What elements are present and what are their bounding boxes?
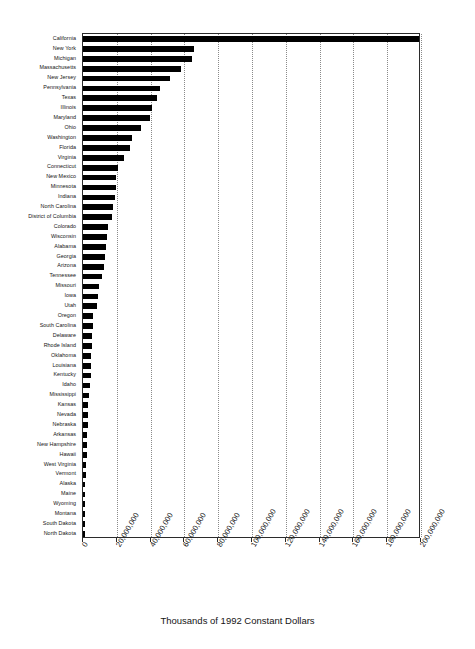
bar[interactable] [83, 313, 93, 319]
bar[interactable] [83, 303, 97, 309]
category-label: West Virginia [44, 461, 76, 467]
bar[interactable] [83, 373, 91, 379]
bar-row [83, 66, 419, 72]
value-axis-labels: 020,000,00040,000,00060,000,00080,000,00… [0, 538, 475, 613]
category-label: North Carolina [41, 203, 76, 209]
bar[interactable] [83, 343, 92, 349]
bar[interactable] [83, 402, 88, 408]
bar[interactable] [83, 274, 102, 280]
category-label: Nevada [57, 411, 76, 417]
bar[interactable] [83, 264, 104, 270]
bar[interactable] [83, 204, 113, 210]
bar[interactable] [83, 462, 86, 468]
bar[interactable] [83, 472, 86, 478]
bar[interactable] [83, 482, 85, 488]
category-label: Nebraska [53, 421, 76, 427]
bar[interactable] [83, 363, 91, 369]
category-label: Maryland [53, 114, 76, 120]
x-axis-tick-label: 200,000,000 [418, 507, 447, 548]
bar[interactable] [83, 145, 130, 151]
bar[interactable] [83, 383, 90, 389]
bar-row [83, 363, 419, 369]
bar[interactable] [83, 214, 112, 220]
category-label: Idaho [62, 381, 76, 387]
bar[interactable] [83, 492, 85, 498]
gridline [421, 34, 423, 537]
bar[interactable] [83, 501, 85, 507]
category-label: Illinois [61, 104, 76, 110]
category-label: Vermont [56, 470, 76, 476]
bar-chart: CaliforniaNew YorkMichiganMassachusettsN… [0, 0, 475, 649]
category-label: Kentucky [53, 371, 76, 377]
bar[interactable] [83, 165, 118, 171]
category-label: Rhode Island [44, 342, 76, 348]
bar-row [83, 531, 419, 537]
bar-row [83, 175, 419, 181]
bar-row [83, 323, 419, 329]
bar-row [83, 195, 419, 201]
category-label: Georgia [56, 253, 76, 259]
category-label: Minnesota [51, 183, 76, 189]
bar-row [83, 274, 419, 280]
bar[interactable] [83, 531, 85, 537]
bar[interactable] [83, 155, 124, 161]
bar-row [83, 185, 419, 191]
category-label: Michigan [54, 55, 76, 61]
bar[interactable] [83, 412, 88, 418]
bar[interactable] [83, 95, 157, 101]
bar[interactable] [83, 244, 106, 250]
bar-row [83, 155, 419, 161]
category-label: Oregon [58, 312, 76, 318]
bar[interactable] [83, 135, 132, 141]
bar[interactable] [83, 195, 115, 201]
category-label: Mississippi [49, 391, 76, 397]
bar[interactable] [83, 105, 152, 111]
bar[interactable] [83, 76, 170, 82]
bar[interactable] [83, 452, 87, 458]
bar-row [83, 56, 419, 62]
bar-row [83, 422, 419, 428]
bar[interactable] [83, 115, 150, 121]
bar[interactable] [83, 442, 87, 448]
bar-row [83, 432, 419, 438]
category-label: Arizona [57, 262, 76, 268]
bar[interactable] [83, 56, 192, 62]
bar[interactable] [83, 234, 107, 240]
category-label: South Dakota [43, 520, 76, 526]
category-label: New Hampshire [37, 441, 76, 447]
bar-row [83, 244, 419, 250]
bar-row [83, 383, 419, 389]
bar[interactable] [83, 254, 105, 260]
bar[interactable] [83, 86, 160, 92]
bar-row [83, 492, 419, 498]
bar[interactable] [83, 66, 181, 72]
bar[interactable] [83, 333, 92, 339]
category-label: Indiana [58, 193, 76, 199]
category-label: Wisconsin [51, 233, 76, 239]
category-label: North Dakota [44, 530, 76, 536]
category-label: District of Columbia [28, 213, 76, 219]
bar[interactable] [83, 294, 98, 300]
bar[interactable] [83, 185, 116, 191]
bar[interactable] [83, 393, 89, 399]
category-label: South Carolina [40, 322, 76, 328]
bar[interactable] [83, 511, 85, 517]
bar-row [83, 115, 419, 121]
bar[interactable] [83, 521, 85, 527]
bar[interactable] [83, 175, 116, 181]
category-label: California [53, 35, 76, 41]
bar[interactable] [83, 323, 93, 329]
bar-row [83, 86, 419, 92]
bar[interactable] [83, 353, 91, 359]
x-axis-tick-label: 0 [80, 540, 90, 548]
bar[interactable] [83, 46, 194, 52]
category-label: New Jersey [47, 74, 76, 80]
bar[interactable] [83, 36, 419, 42]
bar[interactable] [83, 125, 141, 131]
category-label: Iowa [64, 292, 76, 298]
bar[interactable] [83, 224, 108, 230]
bar[interactable] [83, 432, 87, 438]
bar-row [83, 105, 419, 111]
bar[interactable] [83, 284, 99, 290]
bar[interactable] [83, 422, 88, 428]
